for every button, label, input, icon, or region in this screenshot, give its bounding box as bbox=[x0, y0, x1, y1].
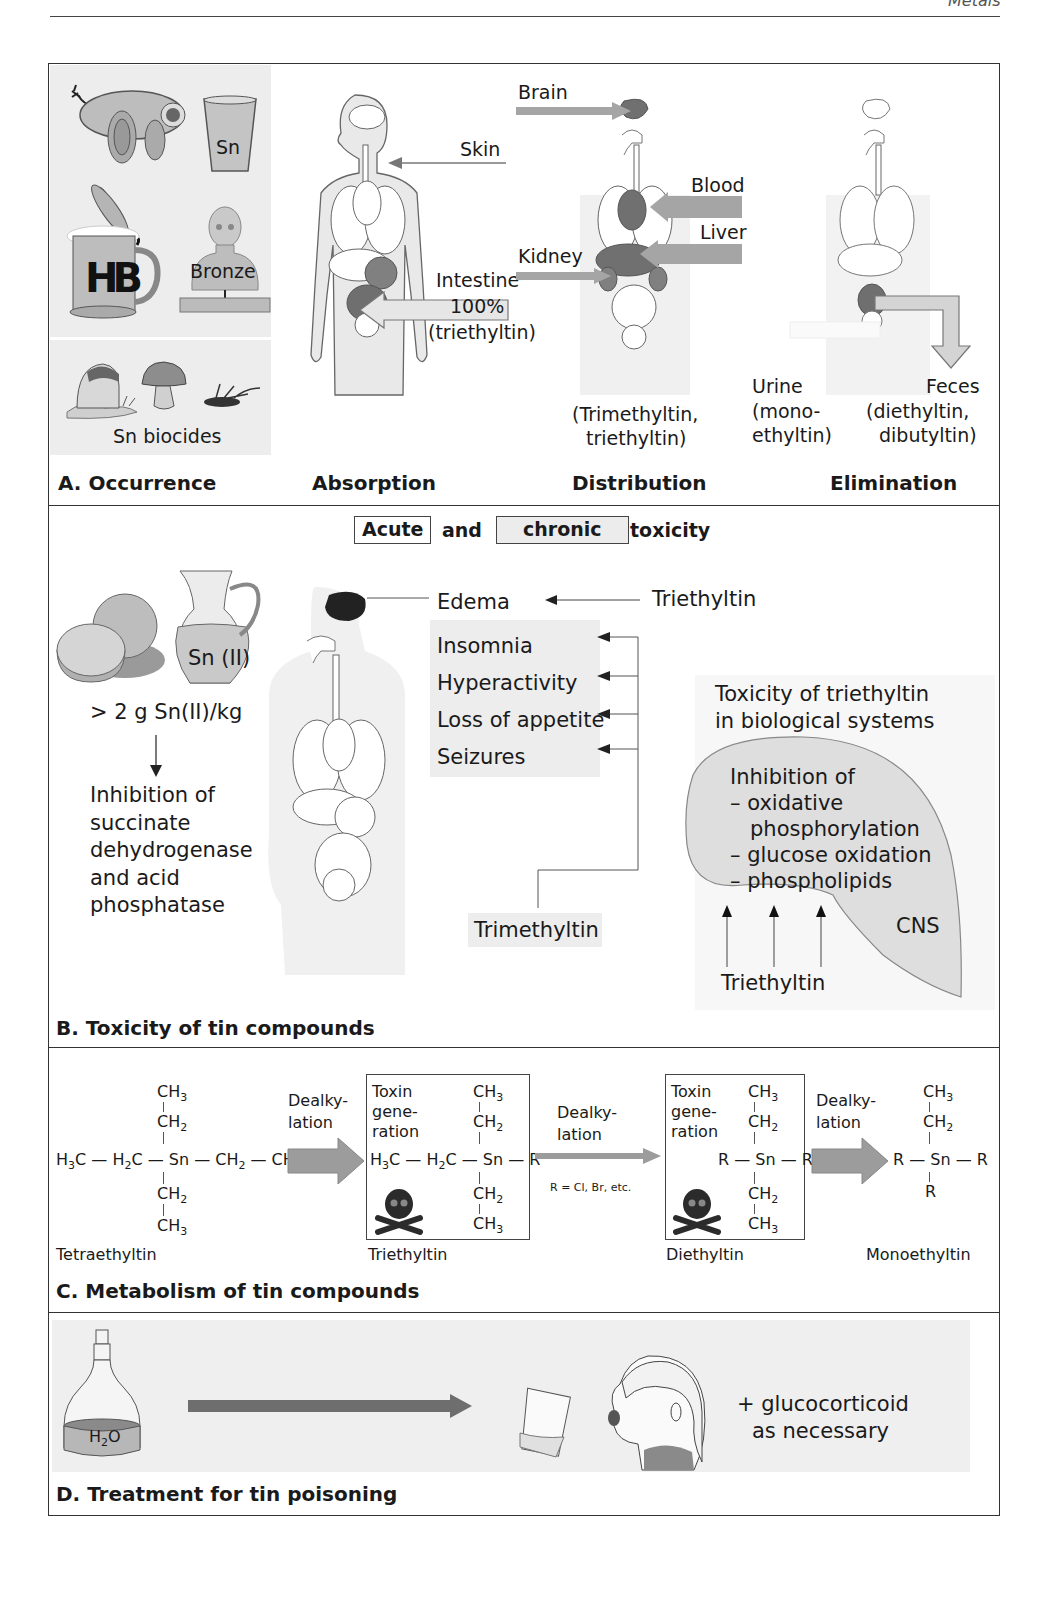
jug-label: Sn (II) bbox=[188, 646, 250, 670]
feces-label: Feces bbox=[926, 376, 980, 398]
biocides-label: Sn biocides bbox=[113, 426, 221, 448]
dealkylation-label-2b: lation bbox=[557, 1126, 602, 1144]
dose-label: > 2 g Sn(II)/kg bbox=[90, 700, 242, 724]
trimethyltin-label: Trimethyltin bbox=[474, 918, 599, 942]
liver-label: Liver bbox=[700, 222, 747, 244]
skin-label: Skin bbox=[460, 139, 500, 161]
triethyltin-top-label: Triethyltin bbox=[652, 587, 756, 611]
r-definition-note: R = Cl, Br, etc. bbox=[550, 1181, 631, 1194]
monoethyltin-structure: CH3 CH2 R — Sn — R R bbox=[893, 1084, 983, 1204]
compound-name: Diethyltin bbox=[666, 1246, 744, 1264]
elimination-title: Elimination bbox=[830, 471, 957, 495]
running-head-rule bbox=[50, 16, 1000, 17]
dealkylation-label-3a: Dealky- bbox=[816, 1092, 876, 1110]
water-jug-icon bbox=[170, 565, 265, 690]
bust-label: Bronze bbox=[190, 261, 256, 283]
toxicity-label: toxicity bbox=[630, 520, 710, 542]
cns-label: CNS bbox=[896, 914, 940, 938]
kidney-arrow bbox=[516, 268, 611, 284]
distribution-compounds-1: (Trimethyltin, bbox=[572, 404, 698, 426]
mushroom-icon bbox=[140, 362, 190, 412]
glucocorticoid-note-2: as necessary bbox=[752, 1419, 889, 1443]
divider-b-c bbox=[48, 1047, 1000, 1048]
edema-pointer-line bbox=[367, 597, 429, 599]
compound-name: Triethyltin bbox=[368, 1246, 447, 1264]
diethyltin-structure: CH3 CH2 R — Sn — R CH2 CH3 bbox=[718, 1084, 808, 1234]
cns-line: – glucose oxidation bbox=[730, 842, 931, 868]
dead-insect-icon bbox=[200, 380, 265, 410]
triethyltin-up-arrows bbox=[720, 905, 830, 967]
acute-box: Acute bbox=[354, 516, 431, 544]
oranges-icon bbox=[55, 590, 170, 685]
section-c-caption: C. Metabolism of tin compounds bbox=[56, 1279, 419, 1303]
tetraethyltin-structure: CH3 CH2 H3C — H2C — Sn — CH2 — CH3 CH2 C… bbox=[56, 1120, 286, 1240]
cup-label: Sn bbox=[216, 137, 240, 159]
chronic-box: chronic bbox=[496, 516, 629, 544]
dealkylation-label-3b: lation bbox=[816, 1114, 861, 1132]
section-b-caption: B. Toxicity of tin compounds bbox=[56, 1016, 375, 1040]
absorption-percent: 100% bbox=[450, 296, 504, 318]
urine-arrow bbox=[790, 320, 880, 340]
drinking-glass-icon bbox=[516, 1385, 578, 1460]
urine-compound-1: (mono- bbox=[752, 401, 820, 423]
dealkylation-label-2a: Dealky- bbox=[557, 1104, 617, 1122]
distribution-title: Distribution bbox=[572, 471, 707, 495]
blood-label: Blood bbox=[691, 175, 745, 197]
feces-arrow bbox=[875, 296, 975, 370]
divider-a-b bbox=[48, 505, 1000, 506]
urine-label: Urine bbox=[752, 376, 803, 398]
bio-title-2: in biological systems bbox=[715, 709, 934, 733]
liver-arrow bbox=[640, 240, 742, 268]
dose-down-arrow bbox=[150, 735, 162, 777]
inhibition-list: Inhibition of succinate dehydrogenase an… bbox=[90, 782, 253, 920]
cns-line: Inhibition of bbox=[730, 764, 931, 790]
inhibition-line: phosphatase bbox=[90, 892, 253, 920]
brain-label: Brain bbox=[518, 82, 568, 104]
inhibition-line: succinate bbox=[90, 810, 253, 838]
cns-line: phosphorylation bbox=[730, 816, 931, 842]
distribution-compounds-2: triethyltin) bbox=[586, 428, 686, 450]
inhibition-line: Inhibition of bbox=[90, 782, 253, 810]
section-a-caption: A. Occurrence bbox=[58, 471, 216, 495]
compound-name: Tetraethyltin bbox=[56, 1246, 157, 1264]
tin-cup-icon bbox=[200, 95, 260, 175]
human-body-toxicity bbox=[255, 585, 425, 975]
brain-arrow bbox=[516, 102, 631, 120]
dealkylation-label-1b: lation bbox=[288, 1114, 333, 1132]
bio-title-1: Toxicity of triethyltin bbox=[715, 682, 929, 706]
bottle-label: H2O bbox=[89, 1428, 121, 1450]
toxin-line: ration bbox=[671, 1122, 718, 1142]
toxin-generation-2: Toxin gene- ration bbox=[671, 1082, 718, 1142]
section-d-caption: D. Treatment for tin poisoning bbox=[56, 1482, 397, 1506]
cns-line: – oxidative bbox=[730, 790, 931, 816]
running-head: Metals bbox=[948, 0, 1001, 10]
intestine-label: Intestine bbox=[436, 270, 519, 292]
inhibition-line: dehydrogenase bbox=[90, 837, 253, 865]
mug-label: HB bbox=[85, 255, 137, 301]
dealkylation-arrow-3 bbox=[812, 1138, 888, 1184]
absorption-compound: (triethyltin) bbox=[428, 322, 536, 344]
skull-crossbones-icon bbox=[672, 1188, 722, 1234]
snail-icon bbox=[65, 360, 145, 420]
feces-compound-2: dibutyltin) bbox=[879, 425, 977, 447]
divider-c-d bbox=[48, 1312, 1000, 1313]
cannon-icon bbox=[60, 85, 190, 165]
feces-compound-1: (diethyltin, bbox=[866, 401, 969, 423]
toxin-line: Toxin bbox=[671, 1082, 718, 1102]
absorption-title: Absorption bbox=[312, 471, 436, 495]
cns-line: – phospholipids bbox=[730, 868, 931, 894]
dealkylation-arrow-2 bbox=[535, 1148, 661, 1164]
inhibition-line: and acid bbox=[90, 865, 253, 893]
child-drinking-icon bbox=[598, 1352, 718, 1470]
and-label: and bbox=[442, 520, 482, 542]
cns-inhibition-list: Inhibition of – oxidative phosphorylatio… bbox=[730, 764, 931, 894]
skull-crossbones-icon bbox=[374, 1188, 424, 1234]
toxin-line: gene- bbox=[671, 1102, 718, 1122]
human-body-absorption bbox=[305, 95, 435, 395]
edema-label: Edema bbox=[437, 590, 510, 614]
urine-compound-2: ethyltin) bbox=[752, 425, 832, 447]
compound-name: Monoethyltin bbox=[866, 1246, 971, 1264]
trimethyltin-bracket-arrows bbox=[535, 630, 645, 910]
glucocorticoid-note-1: + glucocorticoid bbox=[737, 1392, 909, 1416]
dealkylation-label-1a: Dealky- bbox=[288, 1092, 348, 1110]
